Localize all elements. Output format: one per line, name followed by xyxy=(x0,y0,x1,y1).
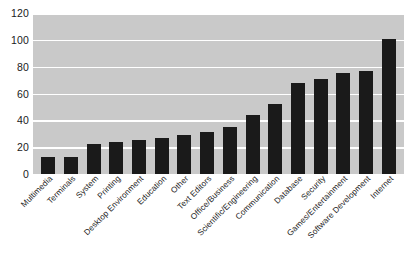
y-axis-tick-label: 40 xyxy=(17,114,29,126)
bar-slot xyxy=(241,13,264,174)
y-axis-tick-label: 80 xyxy=(17,61,29,73)
bar-slot xyxy=(219,13,242,174)
bar-slot xyxy=(355,13,378,174)
bar xyxy=(223,127,237,174)
x-axis-tick-label: Internet xyxy=(368,174,395,201)
bar xyxy=(382,39,396,175)
bar xyxy=(359,71,373,174)
bar xyxy=(87,144,101,174)
bar xyxy=(64,157,78,174)
bar xyxy=(314,79,328,174)
bar-slot xyxy=(377,13,400,174)
y-axis-tick-label: 120 xyxy=(11,7,29,19)
plot-area xyxy=(33,13,404,174)
bar xyxy=(132,140,146,174)
bar-slot xyxy=(287,13,310,174)
x-axis: MultimediaTerminalsSystemPrintingDesktop… xyxy=(33,174,404,274)
bar-slot xyxy=(150,13,173,174)
bar xyxy=(336,73,350,174)
bar-slot xyxy=(309,13,332,174)
bar xyxy=(177,135,191,174)
bar-slot xyxy=(128,13,151,174)
y-axis: 120100806040200 xyxy=(0,13,29,174)
y-axis-tick-label: 0 xyxy=(23,168,29,180)
bar xyxy=(268,104,282,174)
bar xyxy=(246,115,260,174)
bar xyxy=(200,132,214,174)
bar-slot xyxy=(105,13,128,174)
bar xyxy=(291,83,305,174)
bar-slot xyxy=(37,13,60,174)
bar-slot xyxy=(264,13,287,174)
bar-chart: 120100806040200 MultimediaTerminalsSyste… xyxy=(0,0,412,274)
bar-slot xyxy=(60,13,83,174)
bar-slot xyxy=(196,13,219,174)
y-axis-tick-label: 100 xyxy=(11,34,29,46)
bar xyxy=(109,142,123,174)
x-axis-tick-label: System xyxy=(74,174,100,200)
bar-slot xyxy=(173,13,196,174)
y-axis-tick-label: 60 xyxy=(17,88,29,100)
bar-slot xyxy=(332,13,355,174)
bars-layer xyxy=(33,13,404,174)
bar xyxy=(155,138,169,174)
y-axis-tick-label: 20 xyxy=(17,141,29,153)
bar-slot xyxy=(82,13,105,174)
bar xyxy=(41,157,55,174)
